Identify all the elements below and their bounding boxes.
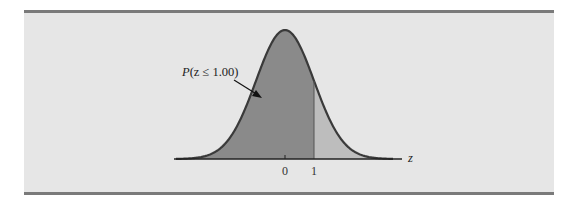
tick-label-1: 1 [311,164,317,178]
probability-annotation: P(z ≤ 1.00) [181,65,239,79]
shaded-area-left [176,30,393,159]
tick-label-0: 0 [282,164,288,178]
annotation-rest: (z ≤ 1.00) [190,65,239,79]
annotation-p: P [181,65,190,79]
axis-label-z: z [407,151,413,165]
normal-curve-figure: 0 1 z P(z ≤ 1.00) [0,0,574,206]
